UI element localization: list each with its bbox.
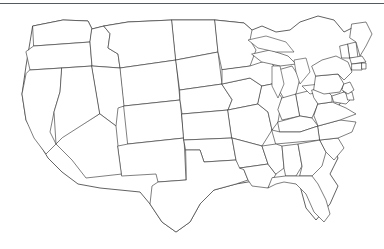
state-kansas [182,110,232,140]
state-connecticut [352,63,362,70]
map-canvas [0,8,384,249]
state-colorado [124,100,184,144]
state-wyoming [120,60,180,106]
top-horizontal-rule [0,3,384,4]
figure-container [0,0,384,249]
state-pennsylvania [314,74,344,94]
us-map-svg [0,8,384,249]
state-minnesota [215,20,256,70]
state-rhode-island [362,63,366,69]
state-outlines-group [22,16,372,232]
state-washington [33,20,92,46]
state-oregon [26,42,92,70]
